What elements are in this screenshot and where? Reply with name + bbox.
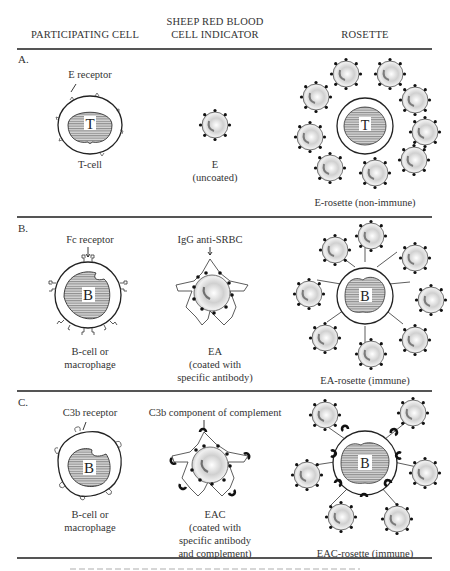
b-cell-label-1: B-cell or: [50, 345, 130, 358]
e-indicator-title: E: [170, 158, 260, 171]
b-cell-c-label-2: macrophage: [50, 521, 130, 534]
ea-rosette-label: EA-rosette (immune): [300, 374, 430, 387]
ea-coated-rbc: [168, 245, 253, 340]
column-header-line-1: SHEEP RED BLOOD: [150, 15, 280, 28]
eac-indicator-sub-3: and complement): [160, 547, 270, 560]
e-rosette-diagram: T: [290, 52, 440, 202]
e-rosette-label: E-rosette (non-immune): [300, 196, 430, 209]
section-label-b: B.: [18, 222, 28, 234]
b-cell-c-label-1: B-cell or: [50, 508, 130, 521]
eac-rosette-label: EAC-rosette (immune): [300, 547, 430, 560]
ea-indicator-sub-2: specific antibody): [160, 371, 270, 384]
ea-indicator-sub-1: (coated with: [160, 358, 270, 371]
svg-text:B: B: [360, 456, 369, 471]
b-cell-label-2: macrophage: [50, 358, 130, 371]
e-indicator-subtitle: (uncoated): [170, 171, 260, 184]
svg-text:B: B: [360, 289, 369, 304]
column-header-srbc-indicator: SHEEP RED BLOOD CELL INDICATOR: [150, 15, 280, 41]
svg-text:B: B: [84, 460, 94, 476]
column-header-participating-cell: PARTICIPATING CELL: [20, 28, 150, 41]
section-divider-b-c: [17, 390, 432, 392]
e-uncoated-rbc: [185, 95, 245, 155]
header-divider: [17, 48, 432, 50]
section-label-c: C.: [18, 396, 28, 408]
eac-indicator-sub-1: (coated with: [160, 521, 270, 534]
b-cell-fc-diagram: B: [40, 245, 140, 340]
svg-text:T: T: [361, 118, 370, 133]
t-cell-diagram: T: [40, 80, 140, 170]
b-cell-letter: B: [83, 287, 93, 303]
eac-coated-rbc: [168, 418, 258, 508]
section-divider-a-b: [17, 216, 432, 218]
eac-rosette-diagram: B: [285, 395, 445, 545]
column-header-rosette: ROSETTE: [300, 28, 430, 41]
ea-indicator-title: EA: [160, 345, 270, 358]
figure-caption-clipped: [70, 566, 360, 571]
eac-indicator-sub-2: specific antibody: [160, 534, 270, 547]
t-cell-letter: T: [85, 116, 94, 132]
t-cell-label: T-cell: [50, 158, 130, 171]
ea-rosette-diagram: B: [285, 222, 445, 372]
section-label-a: A.: [18, 53, 29, 65]
column-header-line-2: CELL INDICATOR: [150, 28, 280, 41]
b-cell-c3b-diagram: B: [40, 418, 140, 508]
receptor-arrow-icon: [83, 422, 86, 430]
receptor-arrow-icon: [71, 84, 76, 92]
eac-indicator-title: EAC: [160, 508, 270, 521]
